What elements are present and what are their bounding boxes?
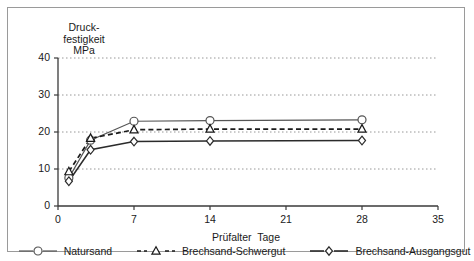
chart-frame: Druck-festigkeitMPa Prüfalter Tage 01020…: [7, 7, 465, 252]
y-tick-label-20: 20: [28, 125, 50, 137]
marker-diamond: [130, 137, 137, 146]
series-line-2: [69, 141, 362, 182]
legend-marker-triangle: [152, 247, 160, 254]
marker-triangle: [358, 125, 366, 133]
legend-item-1: Brechsand-Schwergut: [136, 244, 285, 258]
legend-label-2: Brechsand-Ausgangsgut: [355, 245, 470, 257]
series-markers-group: [65, 116, 366, 186]
legend-item-0: Natursand: [18, 244, 112, 258]
x-tick-label-7: 7: [121, 213, 147, 225]
legend-swatch-circle: [18, 244, 58, 258]
x-tick-label-35: 35: [425, 213, 451, 225]
series-lines-group: [69, 120, 362, 181]
x-tick-label-0: 0: [45, 213, 71, 225]
series-line-1: [69, 129, 362, 172]
legend-item-2: Brechsand-Ausgangsgut: [309, 244, 470, 258]
legend-label-0: Natursand: [64, 245, 112, 257]
chart-legend: NatursandBrechsand-SchwergutBrechsand-Au…: [22, 242, 466, 260]
gridlines-group: [58, 58, 438, 169]
legend-marker-diamond: [326, 247, 333, 255]
marker-circle: [358, 116, 366, 124]
legend-marker-circle: [34, 247, 42, 255]
y-tick-label-30: 30: [28, 88, 50, 100]
y-tick-label-0: 0: [28, 199, 50, 211]
marker-diamond: [206, 137, 213, 146]
y-axis-title: Druck-festigkeitMPa: [46, 22, 122, 57]
y-tick-label-10: 10: [28, 162, 50, 174]
legend-label-1: Brechsand-Schwergut: [182, 245, 285, 257]
marker-circle: [130, 117, 138, 125]
figure: Druck-festigkeitMPa Prüfalter Tage 01020…: [0, 0, 474, 261]
x-tick-label-28: 28: [349, 213, 375, 225]
marker-diamond: [358, 136, 365, 145]
y-axis-title-line: Druck-: [46, 22, 122, 34]
x-tick-label-14: 14: [197, 213, 223, 225]
legend-swatch-triangle: [136, 244, 176, 258]
y-axis-title-line: MPa: [46, 45, 122, 57]
marker-circle: [206, 117, 214, 125]
y-tick-label-40: 40: [28, 51, 50, 63]
x-tick-label-21: 21: [273, 213, 299, 225]
legend-swatch-diamond: [309, 244, 349, 258]
